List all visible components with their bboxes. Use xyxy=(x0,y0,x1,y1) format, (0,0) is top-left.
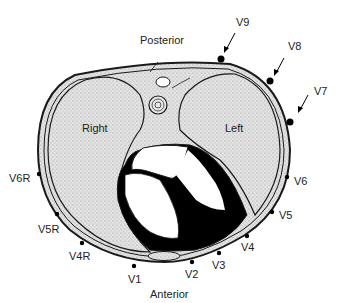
lead-v7: V7 xyxy=(287,85,328,126)
svg-text:V5R: V5R xyxy=(38,223,59,235)
thorax-diagram: Posterior Anterior Right Left V9 V8 V7 V… xyxy=(0,0,343,303)
svg-text:V4R: V4R xyxy=(69,250,90,262)
svg-text:V4: V4 xyxy=(241,241,254,253)
anterior-label: Anterior xyxy=(150,288,189,300)
lead-v6r: V6R xyxy=(9,172,41,184)
svg-text:V1: V1 xyxy=(128,273,141,285)
lead-v6: V6 xyxy=(285,175,308,187)
svg-text:V6R: V6R xyxy=(9,172,30,184)
lead-v1: V1 xyxy=(128,264,141,285)
lead-v3: V3 xyxy=(212,251,225,271)
svg-text:V5: V5 xyxy=(279,209,292,221)
lead-v8: V8 xyxy=(267,40,302,85)
lead-v2: V2 xyxy=(185,260,198,280)
lead-v5r: V5R xyxy=(38,212,59,235)
right-lung-label: Right xyxy=(82,122,108,134)
svg-text:V2: V2 xyxy=(185,268,198,280)
svg-text:V3: V3 xyxy=(212,259,225,271)
lead-v9: V9 xyxy=(218,16,250,63)
svg-text:V6: V6 xyxy=(294,175,307,187)
sternum xyxy=(148,252,180,261)
aorta xyxy=(149,96,167,114)
posterior-label: Posterior xyxy=(140,34,184,46)
lead-v5: V5 xyxy=(270,209,293,221)
svg-text:V8: V8 xyxy=(288,40,301,52)
lead-v4r: V4R xyxy=(69,241,90,262)
left-lung-label: Left xyxy=(225,122,243,134)
svg-text:V9: V9 xyxy=(236,16,249,28)
svg-text:V7: V7 xyxy=(314,85,327,97)
